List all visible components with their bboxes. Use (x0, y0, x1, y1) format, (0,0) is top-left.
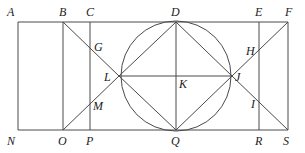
point-label-j: J (235, 70, 241, 84)
point-label-k: K (178, 77, 188, 91)
segment-sj (232, 76, 288, 130)
point-label-l: L (103, 70, 111, 84)
point-label-e: E (254, 5, 263, 19)
point-label-r: R (254, 134, 263, 148)
segment-ol (63, 76, 119, 130)
point-label-i: I (250, 97, 256, 111)
point-label-h: H (245, 44, 256, 58)
geometry-diagram: ABCDEFGHLKJMINOPQRS (0, 0, 305, 153)
point-label-n: N (6, 134, 16, 148)
point-label-m: M (92, 99, 104, 113)
segment-fj (232, 22, 288, 76)
point-label-g: G (94, 40, 103, 54)
point-label-d: D (170, 5, 180, 19)
diagram-lines (18, 22, 288, 130)
point-label-a: A (6, 5, 15, 19)
point-label-p: P (85, 134, 94, 148)
point-label-c: C (86, 5, 95, 19)
segment-bl (63, 22, 119, 76)
point-label-f: F (284, 5, 293, 19)
point-label-b: B (59, 5, 67, 19)
point-label-q: Q (171, 134, 180, 148)
point-label-o: O (58, 134, 67, 148)
point-label-s: S (283, 134, 289, 148)
